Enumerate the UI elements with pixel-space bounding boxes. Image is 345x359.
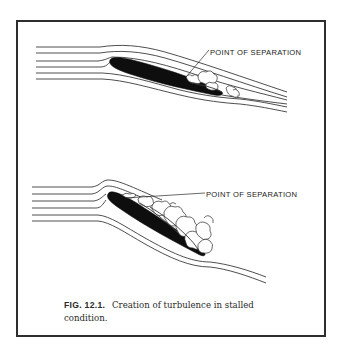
figure-caption: FIG. 12.1. Creation of turbulence in sta… (64, 299, 294, 325)
point-of-separation-label-bottom: POINT OF SEPARATION (206, 190, 297, 199)
streamline (32, 194, 106, 201)
streamline (36, 57, 112, 61)
streamline (32, 221, 266, 283)
streamline (36, 62, 110, 67)
top-panel: POINT OF SEPARATION (36, 45, 301, 112)
figure-number: FIG. 12.1. (64, 300, 105, 310)
streamline (36, 79, 287, 112)
bottom-panel: POINT OF SEPARATION (32, 180, 297, 283)
point-of-separation-label-top: POINT OF SEPARATION (210, 48, 301, 57)
streamline (222, 95, 287, 104)
